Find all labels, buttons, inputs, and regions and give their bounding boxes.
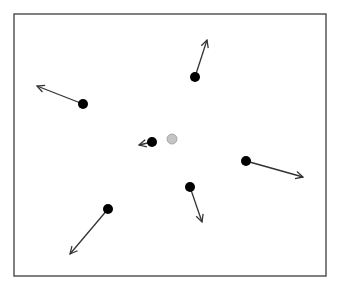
center-marker: [167, 134, 177, 144]
data-point: [103, 204, 113, 214]
plot-frame: [14, 14, 326, 276]
data-point: [185, 182, 195, 192]
data-point: [147, 137, 157, 147]
data-point: [190, 72, 200, 82]
data-point: [241, 156, 251, 166]
diagram-canvas: [0, 0, 343, 288]
data-point: [78, 99, 88, 109]
